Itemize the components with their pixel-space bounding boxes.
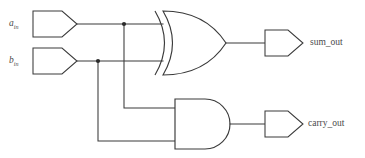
circuit-schematic-canvas <box>0 0 365 158</box>
output-port-sum-out[interactable] <box>265 30 303 56</box>
input-label-a-in-subscript: in <box>14 24 19 30</box>
output-port-carry-out[interactable] <box>265 111 303 137</box>
half-adder-diagram: ain bin sum_out carry_out <box>0 0 365 158</box>
and-gate-body[interactable] <box>175 99 230 149</box>
xor-gate-inner-arc <box>155 11 165 75</box>
input-label-a-in: ain <box>9 19 18 30</box>
input-port-b-in[interactable] <box>33 48 77 74</box>
input-label-b-in-subscript: in <box>14 61 19 67</box>
junction-dot-a <box>122 22 126 26</box>
output-label-sum-out: sum_out <box>310 38 343 48</box>
wire-b-in-to-and <box>98 61 175 141</box>
xor-gate-body[interactable] <box>163 11 226 75</box>
junction-dot-b <box>96 59 100 63</box>
input-port-a-in[interactable] <box>33 11 77 37</box>
input-label-b-in: bin <box>9 56 18 67</box>
output-label-carry-out: carry_out <box>308 119 344 129</box>
